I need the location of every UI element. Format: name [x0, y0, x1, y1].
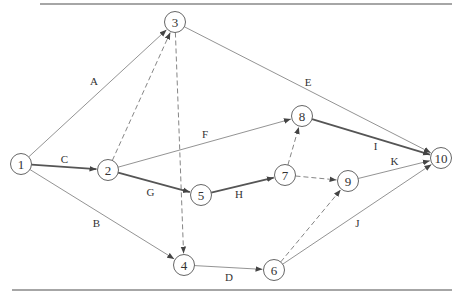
edge-c: [31, 165, 96, 169]
node-4: 4: [174, 255, 195, 276]
edge-label-h: H: [235, 188, 243, 200]
node-label: 3: [172, 15, 179, 30]
node-8: 8: [292, 106, 313, 127]
edge-i: [312, 119, 430, 155]
edge-label-d: D: [225, 271, 233, 283]
edge-label-a: A: [90, 75, 98, 87]
dummy-edge-2-3: [112, 32, 170, 160]
edge-f: [118, 119, 291, 167]
node-7: 7: [275, 165, 296, 186]
edge-label-k: K: [391, 155, 399, 167]
edge-label-c: C: [61, 153, 68, 165]
edge-d: [194, 266, 262, 270]
dummy-edge-7-9: [295, 176, 336, 180]
node-label: 4: [181, 258, 188, 273]
node-1: 1: [11, 154, 32, 175]
edge-label-b: B: [93, 217, 100, 229]
edge-label-e: E: [305, 76, 312, 88]
node-3: 3: [165, 12, 186, 33]
node-label: 8: [299, 109, 306, 124]
node-label: 5: [198, 188, 205, 203]
edge-a: [29, 30, 167, 157]
node-label: 7: [282, 168, 289, 183]
edge-e: [184, 27, 430, 153]
edge-b: [30, 170, 174, 259]
node-6: 6: [264, 260, 285, 281]
node-label: 1: [18, 157, 25, 172]
edge-label-i: I: [374, 140, 378, 152]
edge-label-j: J: [355, 217, 360, 229]
dummy-edge-7-8: [288, 127, 299, 165]
node-label: 6: [271, 263, 278, 278]
edge-label-f: F: [202, 128, 208, 140]
node-2: 2: [98, 160, 119, 181]
network-diagram: ABCDEFGHIJK 12345678910: [0, 0, 460, 296]
edge-label-g: G: [147, 186, 155, 198]
node-9: 9: [338, 171, 359, 192]
dummy-edge-3-4: [175, 32, 183, 253]
node-5: 5: [191, 185, 212, 206]
dummy-edge-6-9: [281, 190, 341, 262]
node-label: 2: [105, 163, 112, 178]
node-10: 10: [431, 148, 452, 169]
node-label: 9: [345, 174, 352, 189]
node-label: 10: [435, 151, 448, 166]
